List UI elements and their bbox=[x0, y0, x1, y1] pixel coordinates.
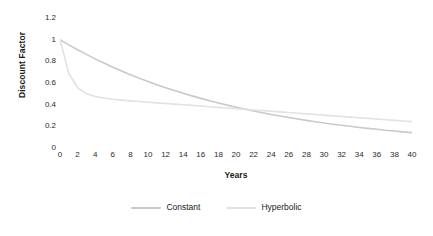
y-tick-label: 0.6 bbox=[45, 79, 56, 87]
y-tick-label: 0.4 bbox=[45, 101, 56, 109]
x-tick-label: 14 bbox=[174, 150, 192, 159]
series-line-hyperbolic bbox=[60, 40, 412, 122]
x-tick-label: 0 bbox=[51, 150, 69, 159]
legend-label-hyperbolic: Hyperbolic bbox=[261, 203, 301, 212]
x-tick-label: 20 bbox=[227, 150, 245, 159]
chart-legend: Constant Hyperbolic bbox=[0, 203, 433, 212]
x-tick-label: 32 bbox=[333, 150, 351, 159]
legend-swatch-hyperbolic bbox=[226, 207, 256, 209]
x-tick-label: 30 bbox=[315, 150, 333, 159]
x-tick-label: 38 bbox=[385, 150, 403, 159]
x-tick-label: 18 bbox=[209, 150, 227, 159]
legend-label-constant: Constant bbox=[166, 203, 200, 212]
x-tick-label: 2 bbox=[69, 150, 87, 159]
x-tick-label: 34 bbox=[350, 150, 368, 159]
y-tick-label: 1.2 bbox=[45, 14, 56, 22]
x-axis-title: Years bbox=[60, 170, 412, 180]
x-tick-label: 12 bbox=[157, 150, 175, 159]
legend-item-constant[interactable]: Constant bbox=[131, 203, 200, 212]
x-tick-label: 26 bbox=[280, 150, 298, 159]
x-tick-label: 22 bbox=[245, 150, 263, 159]
series-lines bbox=[60, 40, 412, 133]
x-tick-label: 10 bbox=[139, 150, 157, 159]
y-axis-title: Discount Factor bbox=[17, 15, 27, 115]
x-tick-label: 16 bbox=[192, 150, 210, 159]
x-axis-tick-labels: 0246810121416182022242628303234363840 bbox=[60, 150, 412, 162]
x-tick-label: 8 bbox=[121, 150, 139, 159]
x-tick-label: 28 bbox=[297, 150, 315, 159]
series-line-constant bbox=[60, 40, 412, 133]
plot-svg bbox=[60, 18, 412, 148]
y-axis-tick-labels: 00.20.40.60.811.2 bbox=[30, 14, 56, 148]
x-tick-label: 24 bbox=[262, 150, 280, 159]
y-tick-label: 0.2 bbox=[45, 122, 56, 130]
discount-factor-chart: Discount Factor 00.20.40.60.811.2 024681… bbox=[0, 0, 433, 236]
y-tick-label: 1 bbox=[52, 36, 56, 44]
x-tick-label: 36 bbox=[368, 150, 386, 159]
x-tick-label: 4 bbox=[86, 150, 104, 159]
x-tick-label: 6 bbox=[104, 150, 122, 159]
plot-area bbox=[60, 18, 412, 148]
x-tick-label: 40 bbox=[403, 150, 421, 159]
legend-item-hyperbolic[interactable]: Hyperbolic bbox=[226, 203, 301, 212]
y-tick-label: 0.8 bbox=[45, 57, 56, 65]
legend-swatch-constant bbox=[131, 207, 161, 209]
